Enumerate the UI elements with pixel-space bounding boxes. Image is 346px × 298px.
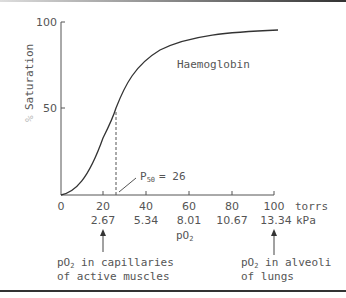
p50-leader xyxy=(119,178,136,192)
x-tick-80: 80 xyxy=(225,200,239,213)
curve-label: Haemoglobin xyxy=(177,58,250,71)
kpa-tick-40: 5.34 xyxy=(134,214,159,227)
annotation-capillaries-line1: pO2 in capillaries xyxy=(57,256,174,270)
arrow-capillaries xyxy=(100,229,106,252)
x-unit-kpa: kPa xyxy=(296,214,316,227)
svg-text:Saturation: Saturation xyxy=(23,44,36,110)
x-tick-100: 100 xyxy=(264,200,285,213)
kpa-tick-100: 13.34 xyxy=(260,214,292,227)
annotation-alveoli-line2: of lungs xyxy=(241,270,294,283)
kpa-tick-20: 2.67 xyxy=(91,214,116,227)
annotation-alveoli-line1: pO2 in alveoli xyxy=(241,256,331,270)
kpa-tick-80: 10.67 xyxy=(216,214,248,227)
kpa-tick-60: 8.01 xyxy=(177,214,202,227)
annotation-capillaries-line2: of active muscles xyxy=(57,270,170,283)
y-tick-50: 50 xyxy=(43,102,57,115)
bottom-border xyxy=(0,290,346,292)
y-axis-label: Saturation % xyxy=(23,44,36,122)
x-tick-0: 0 xyxy=(58,200,65,213)
x-unit-torrs: torrs xyxy=(295,200,328,213)
p50-label: P50= 26 xyxy=(140,170,186,184)
x-axis xyxy=(61,191,274,195)
x-tick-20: 20 xyxy=(96,200,110,213)
y-tick-100: 100 xyxy=(36,16,57,29)
oxygen-dissociation-chart: 100 50 Saturation % P50= 26 Haemoglobin … xyxy=(0,0,346,298)
arrow-alveoli xyxy=(271,229,277,255)
x-tick-60: 60 xyxy=(182,200,196,213)
x-axis-label: pO2 xyxy=(176,229,193,243)
percent-unit: % xyxy=(23,115,36,122)
y-axis xyxy=(61,22,65,195)
x-tick-40: 40 xyxy=(139,200,153,213)
